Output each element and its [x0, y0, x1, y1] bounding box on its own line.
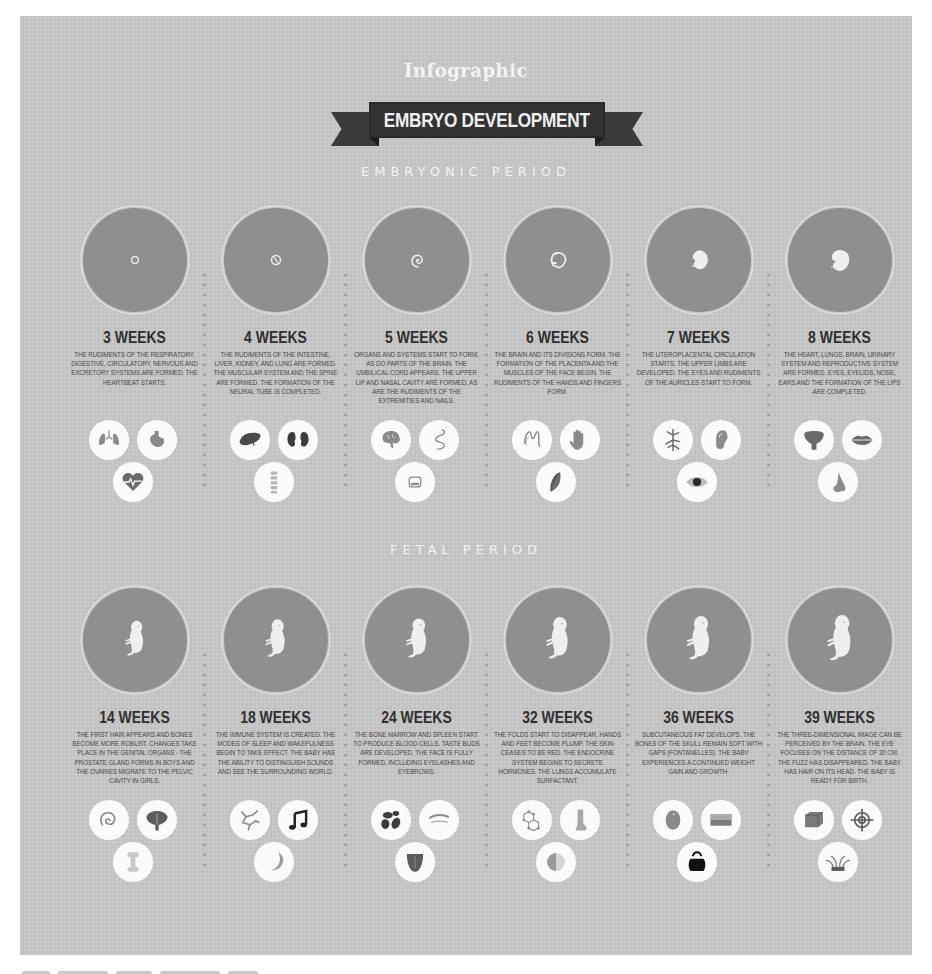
stage-description: The uteroplacental circulation starts. T… — [634, 350, 763, 387]
infographic-panel: Infographic EMBRYO DEVELOPMENT EMBRYONIC… — [20, 16, 912, 955]
ribbon-banner: EMBRYO DEVELOPMENT — [369, 102, 605, 138]
moon-icon — [254, 842, 294, 882]
liver-icon — [230, 420, 270, 460]
embryo-3-illustration — [83, 208, 187, 312]
embryo-8-illustration — [788, 208, 892, 312]
immune-cells-icon — [230, 800, 270, 840]
stage-description: Organs and systems start to form, as do … — [352, 350, 481, 405]
stage-description: Subcutaneous fat develops. The bones of … — [634, 730, 763, 776]
organ-icon-cluster — [794, 420, 886, 506]
placenta-icon — [512, 420, 552, 460]
supertitle: Infographic — [20, 60, 912, 81]
bone-icon — [113, 842, 153, 882]
muscle-icon — [536, 462, 576, 502]
foot-icon — [560, 800, 600, 840]
fetus-14-illustration — [83, 588, 187, 692]
fat-layer-icon — [701, 800, 741, 840]
stage-card: 32 WEEKSThe folds start to disappear. Ha… — [487, 588, 628, 898]
embryo-5-illustration — [365, 208, 469, 312]
fetus-36-illustration — [647, 588, 751, 692]
stage-weeks-label: 8 WEEKS — [782, 328, 898, 348]
hair-icon — [89, 800, 129, 840]
fetus-32-illustration — [506, 588, 610, 692]
stage-weeks-label: 36 WEEKS — [641, 708, 757, 728]
organ-icon-cluster — [794, 800, 886, 886]
stage-weeks-label: 39 WEEKS — [782, 708, 898, 728]
stage-description: The heart, lungs, brain, urinary system … — [775, 350, 904, 396]
fingernail-icon — [395, 462, 435, 502]
stage-card: 6 WEEKSThe brain and its divisions form.… — [487, 208, 628, 518]
lungs-icon — [89, 420, 129, 460]
title-ribbon: EMBRYO DEVELOPMENT — [331, 102, 643, 148]
molecule-icon — [512, 800, 552, 840]
stage-card: 14 WEEKSThe first hair appears and bones… — [64, 588, 205, 898]
stage-weeks-label: 18 WEEKS — [218, 708, 334, 728]
ear-icon — [701, 420, 741, 460]
spine-icon — [254, 462, 294, 502]
stage-weeks-label: 14 WEEKS — [77, 708, 193, 728]
skull-icon — [653, 800, 693, 840]
kidneys-icon — [278, 420, 318, 460]
skin-tone-icon — [536, 842, 576, 882]
scalp-hair-icon — [818, 842, 858, 882]
stage-description: The first hair appears and bones become … — [70, 730, 199, 785]
stage-card: 5 WEEKSOrgans and systems start to form,… — [346, 208, 487, 518]
organ-icon-cluster — [230, 800, 322, 886]
fetal-stages-row: 14 WEEKSThe first hair appears and bones… — [64, 588, 910, 898]
organ-icon-cluster — [512, 800, 604, 886]
stage-card: 3 WEEKSThe rudiments of the respiratory,… — [64, 208, 205, 518]
fetal-period-heading: FETAL PERIOD — [20, 542, 912, 557]
stage-card: 7 WEEKSThe uteroplacental circulation st… — [628, 208, 769, 518]
organ-icon-cluster — [371, 420, 463, 506]
target-icon — [842, 800, 882, 840]
cube-icon — [794, 800, 834, 840]
stage-description: The bone marrow and spleen start to prod… — [352, 730, 481, 776]
stage-card: 24 WEEKSThe bone marrow and spleen start… — [346, 588, 487, 898]
stage-card: 39 WEEKSThe three-dimensional image can … — [769, 588, 910, 898]
blood-cells-icon — [371, 800, 411, 840]
stage-weeks-label: 24 WEEKS — [359, 708, 475, 728]
embryonic-period-heading: EMBRYONIC PERIOD — [20, 164, 912, 179]
stage-card: 4 WEEKSThe rudiments of the intestine, l… — [205, 208, 346, 518]
organ-icon-cluster — [512, 420, 604, 506]
blood-vessels-icon — [653, 420, 693, 460]
organ-icon-cluster — [653, 420, 745, 506]
organ-icon-cluster — [653, 800, 745, 886]
stage-description: The folds start to disappear. Hands and … — [493, 730, 622, 785]
umbilical-cord-icon — [419, 420, 459, 460]
fetus-39-illustration — [788, 588, 892, 692]
music-note-icon — [278, 800, 318, 840]
eye-icon — [677, 462, 717, 502]
organ-icon-cluster — [371, 800, 463, 886]
stage-description: The three-dimensional image can be perce… — [775, 730, 904, 785]
bladder-icon — [794, 420, 834, 460]
brain-icon — [371, 420, 411, 460]
cropped-caption — [22, 959, 322, 974]
nose-icon — [818, 462, 858, 502]
weight-icon — [677, 842, 717, 882]
embryonic-stages-row: 3 WEEKSThe rudiments of the respiratory,… — [64, 208, 910, 518]
heartbeat-icon — [113, 462, 153, 502]
prostate-icon — [137, 800, 177, 840]
organ-icon-cluster — [89, 420, 181, 506]
stage-card: 18 WEEKSThe immune system is created. Th… — [205, 588, 346, 898]
stage-weeks-label: 7 WEEKS — [641, 328, 757, 348]
stage-weeks-label: 3 WEEKS — [77, 328, 193, 348]
fetus-24-illustration — [365, 588, 469, 692]
stage-card: 36 WEEKSSubcutaneous fat develops. The b… — [628, 588, 769, 898]
embryo-6-illustration — [506, 208, 610, 312]
stage-weeks-label: 32 WEEKS — [500, 708, 616, 728]
fetus-18-illustration — [224, 588, 328, 692]
stage-description: The immune system is created. The modes … — [211, 730, 340, 776]
stage-card: 8 WEEKSThe heart, lungs, brain, urinary … — [769, 208, 910, 518]
stomach-icon — [137, 420, 177, 460]
embryo-4-illustration — [224, 208, 328, 312]
stage-description: The rudiments of the intestine, liver, k… — [211, 350, 340, 396]
stage-weeks-label: 4 WEEKS — [218, 328, 334, 348]
stage-weeks-label: 6 WEEKS — [500, 328, 616, 348]
stage-description: The rudiments of the respiratory, digest… — [70, 350, 199, 387]
page-title: EMBRYO DEVELOPMENT — [384, 109, 590, 132]
embryo-7-illustration — [647, 208, 751, 312]
lips-icon — [842, 420, 882, 460]
stage-description: The brain and its divisions form. The fo… — [493, 350, 622, 396]
